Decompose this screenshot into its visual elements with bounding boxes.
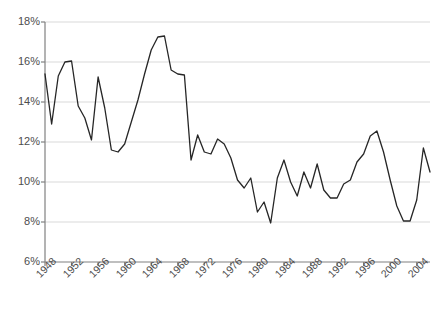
y-tick-label: 10% (2, 176, 40, 187)
y-tick-label: 6% (2, 256, 40, 267)
gridlines (45, 22, 430, 222)
line-chart: 18%16%14%12%10%8%6% 19481952195619601964… (0, 0, 438, 318)
y-tick-label: 8% (2, 216, 40, 227)
data-series-line (45, 36, 430, 223)
y-tick-label: 12% (2, 136, 40, 147)
y-tick-label: 14% (2, 96, 40, 107)
y-tick-label: 16% (2, 56, 40, 67)
y-tick-label: 18% (2, 16, 40, 27)
